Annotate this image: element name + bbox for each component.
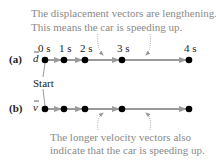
motion-diagram <box>0 0 216 160</box>
bottom-callout-arrows <box>98 113 151 130</box>
start-pointer <box>43 63 45 77</box>
start-pointer-b <box>43 89 45 106</box>
top-callout-arrows <box>98 34 151 55</box>
